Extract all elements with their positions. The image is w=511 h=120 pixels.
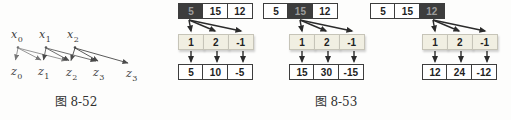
product-row: 15 30 -15 [289, 64, 364, 80]
coeff-cell: -1 [228, 34, 254, 50]
conv-block-3: 5 15 12 1 2 -1 12 24 -12 [370, 0, 505, 90]
figure-panel: x0 x1 x2 z0 z1 z2 z3 z3 图 8-52 图 8-53 5 … [0, 0, 511, 120]
input-cell: 5 [263, 3, 289, 19]
coefficient-row: 1 2 -1 [422, 34, 498, 50]
x0-arrows [16, 48, 68, 61]
product-cell: 24 [446, 64, 472, 80]
product-cell: -12 [471, 64, 497, 80]
coeff-cell: -1 [339, 34, 365, 50]
coeff-cell: -1 [472, 34, 498, 50]
coeff-cell: 2 [314, 34, 340, 50]
z2-label: z2 [66, 67, 77, 82]
input-cell-highlighted: 5 [178, 3, 204, 19]
x2-label: x2 [67, 29, 78, 44]
z0-label: z0 [11, 66, 22, 81]
coefficient-row: 1 2 -1 [178, 34, 254, 50]
coefficient-row: 1 2 -1 [289, 34, 365, 50]
fig852-caption: 图 8-52 [36, 92, 116, 109]
input-cell: 12 [312, 3, 338, 19]
input-cell: 15 [394, 3, 420, 19]
z1-label: z1 [38, 66, 49, 81]
product-cell: 30 [313, 64, 339, 80]
input-cell-highlighted: 12 [419, 3, 445, 19]
input-cell: 15 [202, 3, 228, 19]
input-row: 5 15 12 [178, 3, 253, 19]
product-cell: -15 [338, 64, 364, 80]
z3-label: z3 [93, 67, 104, 82]
product-cell: 10 [202, 64, 228, 80]
coeff-cell: 2 [203, 34, 229, 50]
coeff-cell: 1 [422, 34, 448, 50]
product-cell: 5 [178, 64, 204, 80]
x1-arrows [44, 48, 97, 61]
product-cell: 12 [422, 64, 448, 80]
product-row: 5 10 -5 [178, 64, 253, 80]
input-cell-highlighted: 15 [287, 3, 313, 19]
fig852-graph [16, 46, 129, 63]
coeff-cell: 1 [178, 34, 204, 50]
coeff-cell: 1 [289, 34, 315, 50]
product-row: 12 24 -12 [422, 64, 497, 80]
fig853-caption: 图 8-53 [296, 92, 376, 109]
input-row: 5 15 12 [370, 3, 445, 19]
z3b-label: z3 [126, 68, 137, 83]
product-cell: -5 [227, 64, 253, 80]
x0-label: x0 [11, 29, 22, 44]
input-cell: 12 [227, 3, 253, 19]
x1-label: x1 [39, 29, 50, 44]
product-cell: 15 [289, 64, 315, 80]
x2-arrows [71, 48, 128, 63]
input-row: 5 15 12 [263, 3, 338, 19]
input-cell: 5 [370, 3, 396, 19]
coeff-cell: 2 [447, 34, 473, 50]
